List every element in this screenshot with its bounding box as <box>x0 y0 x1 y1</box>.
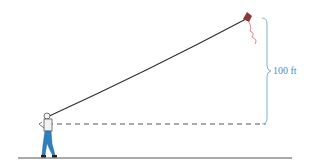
person-figure <box>39 113 57 158</box>
kite-icon <box>243 12 256 44</box>
height-brace <box>262 18 271 124</box>
height-label: 100 ft <box>273 65 297 76</box>
kite-diagram: 100 ft <box>0 0 311 167</box>
kite-string <box>45 19 246 118</box>
